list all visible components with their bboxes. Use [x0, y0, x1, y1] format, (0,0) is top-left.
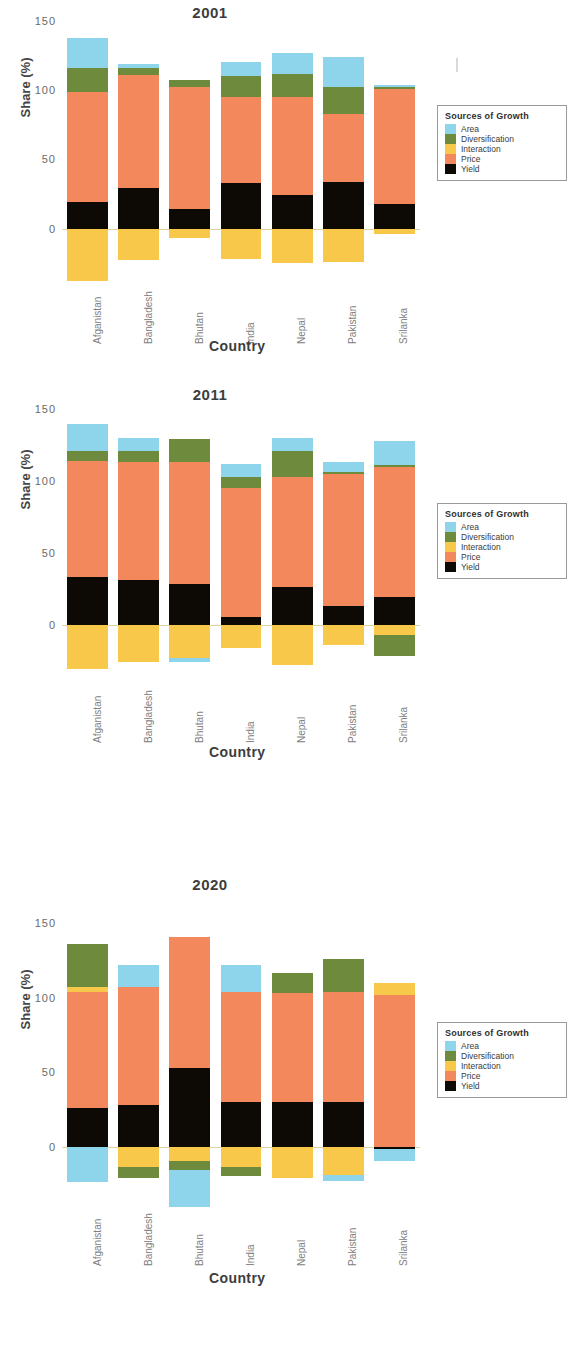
x-tick-bangladesh: Bangladesh: [143, 1213, 154, 1266]
segment-yield: [221, 617, 262, 624]
segment-diversification: [323, 87, 364, 113]
segment-yield: [221, 1102, 262, 1147]
legend-item-area[interactable]: Area: [445, 124, 559, 134]
segment-interaction: [67, 625, 108, 670]
bar-bangladesh: [118, 14, 159, 284]
legend-swatch-diversification-icon: [445, 532, 456, 542]
x-tick-afganistan: Afganistan: [92, 297, 103, 344]
legend-item-yield[interactable]: Yield: [445, 562, 559, 572]
segment-price: [374, 467, 415, 598]
x-tick-bhutan: Bhutan: [194, 711, 205, 743]
segment-area: [67, 38, 108, 68]
legend-item-area[interactable]: Area: [445, 522, 559, 532]
segment-area: [374, 85, 415, 88]
x-tick-pakistan: Pakistan: [347, 705, 358, 743]
y-tick-150: 150: [35, 15, 56, 27]
figure-page: 2001 Share (%) 050100150 AfganistanBangl…: [0, 0, 573, 1366]
bar-pakistan: [323, 402, 364, 682]
segment-interaction: [272, 625, 313, 665]
segment-interaction: [221, 1147, 262, 1168]
legend-title: Sources of Growth: [445, 111, 559, 121]
segment-diversification: [272, 451, 313, 477]
bar-pakistan: [323, 916, 364, 1206]
legend-item-interaction[interactable]: Interaction: [445, 1061, 559, 1071]
legend-swatch-diversification-icon: [445, 1051, 456, 1061]
segment-areaneg: [169, 658, 210, 662]
segment-yield: [118, 1105, 159, 1147]
y-tick-150: 150: [35, 403, 56, 415]
segment-interaction: [374, 229, 415, 235]
segment-diversification: [67, 451, 108, 461]
legend-swatch-interaction-icon: [445, 1061, 456, 1071]
segment-price: [67, 461, 108, 577]
bar-india: [221, 402, 262, 682]
y-tick-0: 0: [49, 1141, 56, 1153]
segment-yield: [169, 209, 210, 228]
chart-panel-2020: 2020 Share (%) 050100150 AfganistanBangl…: [0, 872, 573, 1366]
legend-item-interaction[interactable]: Interaction: [445, 542, 559, 552]
x-tick-bangladesh: Bangladesh: [143, 291, 154, 344]
x-tick-afganistan: Afganistan: [92, 1219, 103, 1266]
x-tick-pakistan: Pakistan: [347, 306, 358, 344]
x-tick-labels-2020: AfganistanBangladeshBhutanIndiaNepalPaki…: [62, 1210, 420, 1270]
legend-item-price[interactable]: Price: [445, 1071, 559, 1081]
y-tick-50: 50: [42, 1066, 56, 1078]
segment-areaneg: [374, 1149, 415, 1161]
legend-label: Price: [461, 1071, 480, 1081]
segment-interaction: [323, 625, 364, 645]
segment-diversification: [221, 477, 262, 488]
legend-item-interaction[interactable]: Interaction: [445, 144, 559, 154]
legend-swatch-yield-icon: [445, 562, 456, 572]
legend-item-price[interactable]: Price: [445, 154, 559, 164]
legend-2020: Sources of GrowthAreaDiversificationInte…: [437, 1022, 567, 1098]
segment-interactionpos: [374, 983, 415, 995]
segment-yield: [374, 204, 415, 229]
segment-area: [221, 62, 262, 76]
x-tick-afganistan: Afganistan: [92, 696, 103, 743]
legend-swatch-interaction-icon: [445, 542, 456, 552]
segment-interaction: [221, 229, 262, 259]
segment-interaction: [169, 1147, 210, 1162]
bar-bangladesh: [118, 402, 159, 682]
legend-item-yield[interactable]: Yield: [445, 164, 559, 174]
x-tick-srilanka: Srilanka: [398, 308, 409, 344]
segment-diversification: [221, 76, 262, 97]
legend-item-diversification[interactable]: Diversification: [445, 532, 559, 542]
legend-2011: Sources of GrowthAreaDiversificationInte…: [437, 503, 567, 579]
legend-item-diversification[interactable]: Diversification: [445, 1051, 559, 1061]
legend-swatch-yield-icon: [445, 164, 456, 174]
y-axis-label-2001: Share (%): [18, 58, 33, 118]
segment-area: [118, 64, 159, 68]
legend-item-price[interactable]: Price: [445, 552, 559, 562]
legend-label: Area: [461, 1041, 479, 1051]
bar-india: [221, 14, 262, 284]
legend-label: Diversification: [461, 134, 514, 144]
legend-swatch-interaction-icon: [445, 144, 456, 154]
legend-label: Area: [461, 124, 479, 134]
legend-item-area[interactable]: Area: [445, 1041, 559, 1051]
segment-diversification: [169, 80, 210, 87]
x-tick-nepal: Nepal: [296, 717, 307, 743]
legend-item-yield[interactable]: Yield: [445, 1081, 559, 1091]
legend-item-diversification[interactable]: Diversification: [445, 134, 559, 144]
x-tick-pakistan: Pakistan: [347, 1228, 358, 1266]
segment-yield: [169, 584, 210, 624]
y-tick-100: 100: [35, 84, 56, 96]
bar-nepal: [272, 402, 313, 682]
legend-swatch-area-icon: [445, 1041, 456, 1051]
segment-price: [323, 992, 364, 1102]
bar-bhutan: [169, 402, 210, 682]
bar-bhutan: [169, 916, 210, 1206]
segment-area: [118, 965, 159, 987]
bar-nepal: [272, 916, 313, 1206]
segment-diversification: [272, 74, 313, 98]
chart-panel-2011: 2011 Share (%) 050100150 AfganistanBangl…: [0, 382, 573, 812]
segment-yield: [221, 183, 262, 229]
legend-title: Sources of Growth: [445, 509, 559, 519]
legend-label: Diversification: [461, 1051, 514, 1061]
legend-swatch-diversification-icon: [445, 134, 456, 144]
segment-diversification: [67, 68, 108, 92]
segment-diversification: [118, 68, 159, 75]
segment-interaction: [118, 1147, 159, 1168]
x-tick-srilanka: Srilanka: [398, 707, 409, 743]
